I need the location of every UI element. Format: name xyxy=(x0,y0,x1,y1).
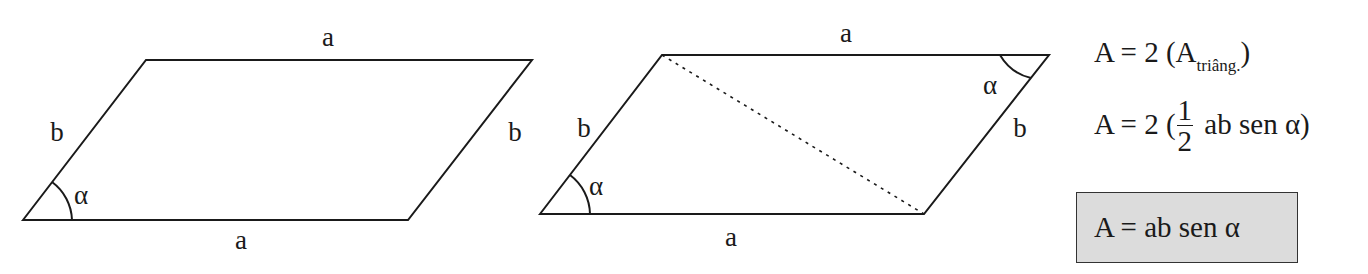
result-formula: A = ab sen α xyxy=(1094,213,1240,242)
result-formula-box: A = ab sen α xyxy=(1076,192,1298,263)
angle-arc-1 xyxy=(52,182,72,220)
fig1-label-angle: α xyxy=(74,182,88,209)
fig1-label-top: a xyxy=(322,24,334,51)
angle-arc-2-top-right xyxy=(1000,55,1031,78)
formula-2-suffix: ab sen α) xyxy=(1197,108,1310,140)
parallelogram-2 xyxy=(540,55,1049,214)
parallelogram-1 xyxy=(23,60,532,220)
fig2-label-angle-bottom-left: α xyxy=(589,173,603,200)
fraction-denominator: 2 xyxy=(1177,126,1194,156)
fig1-label-left: b xyxy=(50,119,64,146)
formula-1-prefix: A = 2 (A xyxy=(1094,36,1197,68)
fraction-numerator: 1 xyxy=(1177,95,1194,126)
formula-line-2: A = 2 (12 ab sen α) xyxy=(1094,97,1310,158)
fig2-label-right: b xyxy=(1013,115,1027,142)
fig1-label-right: b xyxy=(508,119,522,146)
fig2-label-left: b xyxy=(577,115,591,142)
fig2-label-angle-top-right: α xyxy=(983,72,997,99)
diagonal-dotted xyxy=(662,55,924,214)
fig2-label-top: a xyxy=(840,20,852,47)
fraction-one-half: 12 xyxy=(1177,95,1194,156)
formula-2-prefix: A = 2 ( xyxy=(1094,108,1176,140)
fig1-label-bottom: a xyxy=(235,227,247,254)
angle-arc-2-bottom-left xyxy=(570,175,590,214)
formula-line-1: A = 2 (Atriâng.) xyxy=(1094,38,1250,74)
fig2-label-bottom: a xyxy=(725,224,737,251)
formula-1-subscript: triâng. xyxy=(1197,56,1241,75)
formula-1-suffix: ) xyxy=(1240,36,1250,68)
